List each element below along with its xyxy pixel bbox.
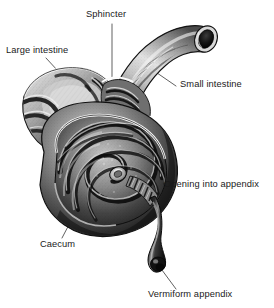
label-large-intestine: Large intestine xyxy=(6,46,68,55)
label-caecum: Caecum xyxy=(40,240,75,249)
label-sphincter: Sphincter xyxy=(86,10,126,19)
label-opening-into-appendix: Opening into appendix xyxy=(164,180,259,189)
label-vermiform-appendix: Vermiform appendix xyxy=(148,290,232,299)
caecum-structure xyxy=(30,95,190,245)
label-small-intestine: Small intestine xyxy=(180,80,242,89)
